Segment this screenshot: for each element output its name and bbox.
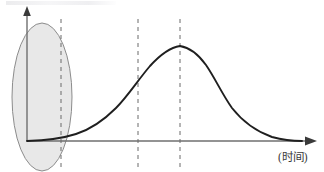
x-axis-arrowhead bbox=[305, 137, 317, 146]
x-axis-label: (时间) bbox=[278, 148, 308, 164]
y-axis-arrowhead bbox=[23, 6, 31, 16]
early-phase-highlight-ellipse bbox=[12, 23, 72, 171]
chart-canvas bbox=[0, 0, 324, 172]
time-curve-figure: (时间) bbox=[0, 0, 324, 172]
